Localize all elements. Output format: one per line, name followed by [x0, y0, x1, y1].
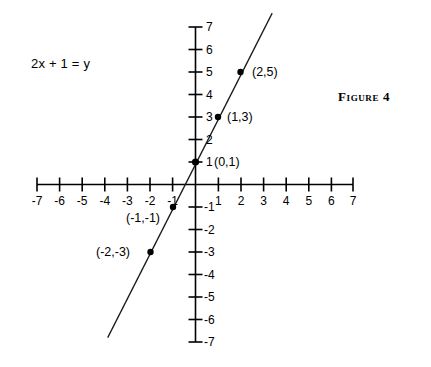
x-tick-label--4: -4 [95, 195, 115, 207]
x-tick-label-7: 7 [343, 195, 363, 207]
data-point-2-5 [237, 69, 243, 75]
y-tick-label-5: 5 [206, 66, 213, 78]
data-point-1-3 [215, 114, 221, 120]
y-tick-label-1: 1 [206, 156, 213, 168]
x-tick-label--7: -7 [27, 195, 47, 207]
data-point-0-1 [192, 158, 199, 165]
x-tick-label--3: -3 [117, 195, 137, 207]
y-tick-label--3: -3 [204, 246, 215, 258]
x-tick-label--1: -1 [163, 195, 183, 207]
equation-label: 2x + 1 = y [31, 57, 90, 70]
x-tick-label-6: 6 [321, 195, 341, 207]
y-tick-label--1: -1 [204, 201, 215, 213]
data-point--2--3 [147, 249, 153, 255]
y-tick-label--7: -7 [204, 336, 215, 348]
y-tick-label--4: -4 [204, 269, 215, 281]
y-tick-label--5: -5 [204, 291, 215, 303]
x-tick-label--6: -6 [50, 195, 70, 207]
point-label--2--3: (-2,-3) [96, 246, 130, 259]
point-label--1--1: (-1,-1) [126, 212, 160, 225]
y-tick-label-2: 2 [206, 134, 213, 146]
y-tick-label-6: 6 [206, 44, 213, 56]
point-label-1-3: (1,3) [227, 111, 253, 124]
x-tick-label--5: -5 [72, 195, 92, 207]
line-2x-plus-1 [108, 13, 273, 338]
point-label-2-5: (2,5) [252, 66, 278, 79]
x-tick-label-5: 5 [299, 195, 319, 207]
figure-caption: Figure 4 [338, 90, 390, 103]
figure-4-graph: 2x + 1 = y Figure 4 -7 -6 -5 -4 -3 -2 -1… [0, 0, 431, 367]
x-tick-label-4: 4 [276, 195, 296, 207]
y-tick-label-7: 7 [206, 21, 213, 33]
y-tick-label--6: -6 [204, 314, 215, 326]
y-tick-label-4: 4 [206, 89, 213, 101]
x-tick-label-2: 2 [231, 195, 251, 207]
x-tick-label-3: 3 [254, 195, 274, 207]
point-label-0-1: (0,1) [214, 156, 240, 169]
x-tick-label--2: -2 [140, 195, 160, 207]
y-tick-label--2: -2 [204, 224, 215, 236]
y-tick-label-3: 3 [206, 111, 213, 123]
